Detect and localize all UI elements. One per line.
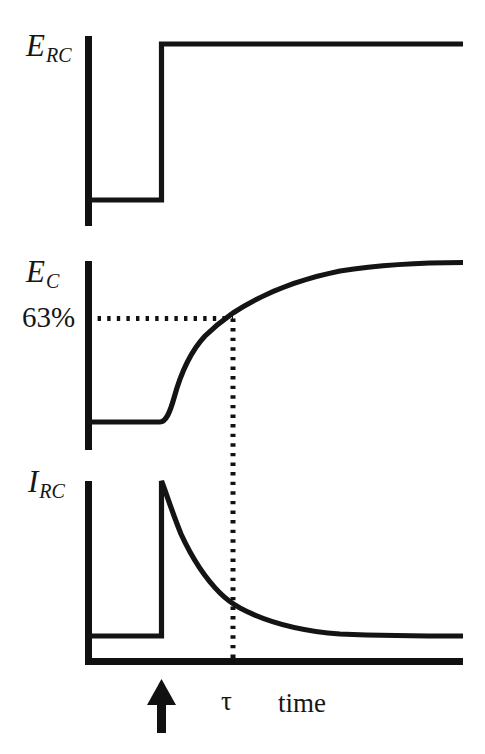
y-axis-label-irc-main: I [28,464,38,499]
y-axis-label-irc: IRC [28,466,64,497]
y-axis-label-irc-sub: RC [39,480,65,502]
rc-waveform-svg [0,0,485,754]
y-axis-label-erc-main: E [26,28,45,63]
annotation-63-percent: 63% [22,303,75,332]
panel-ec-group [88,261,463,450]
y-axis-label-ec: EC [26,256,58,287]
switch-event-arrow-icon [147,679,176,733]
x-axis-tick-label-tau: τ [221,688,232,715]
ec-trace [88,263,463,423]
panel-erc-group [88,36,463,226]
panel-irc-group [86,481,463,665]
arrow-shaft [157,702,166,733]
irc-trace [88,481,463,636]
x-axis-label-time: time [278,690,326,717]
erc-trace [88,44,463,200]
y-axis-label-erc-sub: RC [46,44,72,66]
y-axis-label-ec-main: E [26,254,45,289]
rc-waveform-figure: ERC EC IRC 63% τ time [0,0,485,754]
y-axis-label-ec-sub: C [46,270,59,292]
y-axis-label-erc: ERC [26,30,71,61]
arrow-head [147,679,176,705]
